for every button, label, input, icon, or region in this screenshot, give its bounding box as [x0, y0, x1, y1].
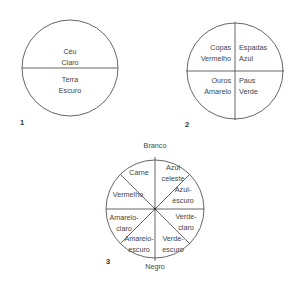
figure-2-section-ouros-label: Ouros Amarelo [204, 76, 231, 97]
figure-1-number: 1 [20, 118, 24, 127]
figure-3-section-verde-escuro-label: Verde- escuro [162, 234, 184, 255]
figure-1-section-terra-label: Terra Escuro [59, 75, 81, 96]
figure-2-section-espadas-label: Espadas Azul [239, 43, 267, 64]
figure-3-number: 3 [106, 257, 110, 266]
figure-3-section-amarelo-claro-label: Amarelo- claro [109, 213, 138, 234]
figure-3-section-vermelho-label: Vermelho [113, 190, 143, 201]
figure-3-pole-bottom-label: Negro [145, 262, 165, 273]
figure-2-number: 2 [185, 120, 189, 129]
figure-3-center-dot [154, 208, 157, 211]
figure-3-section-verde-claro-label: Verde- claro [175, 212, 196, 233]
figure-3-section-amarelo-escuro-label: Amarelo- escuro [124, 234, 153, 255]
figure-2-section-copas-label: Copas Vermelho [201, 43, 231, 64]
figure-3-section-azul-escuro-label: Azul- escuro [172, 185, 194, 206]
figure-2-section-paus-label: Paus Verde [239, 76, 258, 97]
figure-3-pole-top-label: Branco [144, 141, 167, 152]
diagram-canvas: Céu Claro Terra Escuro 1 Copas Vermelho … [0, 0, 307, 291]
figure-1-section-ceu-label: Céu Claro [61, 47, 78, 68]
figure-3-section-carne-label: Carne [129, 168, 149, 179]
figure-3-section-azul-celeste-label: Azul celeste [162, 163, 185, 184]
